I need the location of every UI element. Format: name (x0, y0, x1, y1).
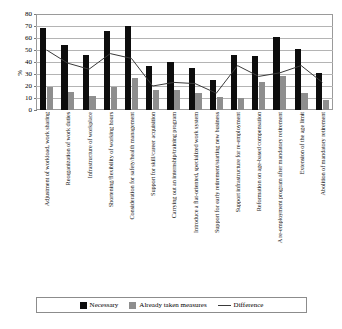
x-axis-category-label: Support for early retirement/starting ne… (213, 112, 220, 233)
x-axis-category-label: Introduce a flat-oriented, specialized w… (192, 112, 199, 233)
y-axis: % 01020304050607080 (14, 14, 34, 110)
bar-necessary (40, 28, 46, 110)
bar-necessary (273, 37, 279, 110)
x-axis-category-label: Consideration for safety/health manageme… (128, 112, 135, 220)
x-axis-category-label: Reorganization of work duties (64, 112, 71, 185)
bar-group (167, 14, 180, 110)
y-axis-tick-label: 30 (25, 71, 32, 78)
bar-group (104, 14, 117, 110)
x-axis-category-label: Shortening/flexibility of working hours (107, 112, 114, 207)
bar-necessary (189, 68, 195, 110)
bar-already-taken-measures (153, 90, 159, 110)
bar-already-taken-measures (47, 87, 53, 110)
x-axis-category-label: Reformation on age-based compensation (255, 112, 262, 211)
bar-necessary (167, 62, 173, 110)
bar-group (273, 14, 286, 110)
bar-already-taken-measures (323, 100, 329, 110)
y-axis-title: % (16, 70, 24, 76)
bar-group (295, 14, 308, 110)
bar-group (40, 14, 53, 110)
x-axis-labels: Adjustment of workload, work sharingReor… (36, 112, 333, 290)
bar-group (231, 14, 244, 110)
bar-necessary (231, 55, 237, 110)
bar-necessary (146, 66, 152, 110)
bar-necessary (210, 80, 216, 110)
x-axis-category-label: Infrastructure of workplace (86, 112, 93, 178)
x-axis-category-label: Extension of the age limit (298, 112, 305, 174)
chart-legend: Necessary Already taken measures Differe… (36, 297, 307, 313)
bar-already-taken-measures (174, 90, 180, 110)
y-axis-tick-label: 50 (25, 47, 32, 54)
bar-necessary (83, 55, 89, 110)
x-axis-category-label: Support for skill/career acquisition (149, 112, 156, 196)
x-axis-category-label: Support infrastructure for re-employment (234, 112, 241, 212)
bar-group (210, 14, 223, 110)
legend-line-difference-icon (218, 305, 231, 306)
y-axis-tick-label: 60 (25, 35, 32, 42)
bar-necessary (104, 31, 110, 110)
y-axis-tick-label: 70 (25, 23, 32, 30)
y-axis-tick-label: 0 (29, 107, 33, 114)
bar-already-taken-measures (280, 76, 286, 110)
y-axis-tick-label: 20 (25, 83, 32, 90)
x-axis-category-label: Carrying out an internship/training prog… (170, 112, 177, 218)
y-axis-tick-mark (34, 110, 37, 111)
bar-group (83, 14, 96, 110)
bar-necessary (295, 49, 301, 110)
legend-label-measures: Already taken measures (139, 301, 206, 309)
bar-already-taken-measures (195, 93, 201, 110)
bar-necessary (316, 73, 322, 110)
legend-item-necessary: Necessary (80, 301, 119, 309)
chart-container: % 01020304050607080 Adjustment of worklo… (0, 0, 342, 329)
bar-necessary (125, 26, 131, 110)
x-axis-category-label: A re-employment program after mandatory … (276, 112, 283, 243)
bar-group (146, 14, 159, 110)
bar-already-taken-measures (132, 78, 138, 110)
plot-area (36, 14, 333, 110)
bar-already-taken-measures (238, 98, 244, 110)
legend-label-necessary: Necessary (90, 301, 119, 309)
bars-layer (36, 14, 333, 110)
bar-already-taken-measures (301, 93, 307, 110)
bar-necessary (61, 45, 67, 110)
bar-group (61, 14, 74, 110)
y-axis-tick-label: 40 (25, 59, 32, 66)
x-axis-category-label: Abolition of mandatory retirement (319, 112, 326, 196)
legend-item-measures: Already taken measures (129, 301, 206, 309)
y-axis-tick-label: 80 (25, 11, 32, 18)
bar-already-taken-measures (259, 82, 265, 110)
bar-group (252, 14, 265, 110)
bar-necessary (252, 56, 258, 110)
bar-group (125, 14, 138, 110)
legend-swatch-measures-icon (129, 302, 136, 309)
legend-swatch-necessary-icon (80, 302, 87, 309)
bar-group (189, 14, 202, 110)
bar-already-taken-measures (89, 96, 95, 110)
legend-item-difference: Difference (218, 301, 264, 309)
bar-already-taken-measures (68, 92, 74, 110)
legend-label-difference: Difference (234, 301, 264, 309)
bar-already-taken-measures (217, 97, 223, 110)
bar-already-taken-measures (111, 87, 117, 110)
x-axis-category-label: Adjustment of workload, work sharing (43, 112, 50, 206)
y-axis-tick-label: 10 (25, 95, 32, 102)
bar-group (316, 14, 329, 110)
